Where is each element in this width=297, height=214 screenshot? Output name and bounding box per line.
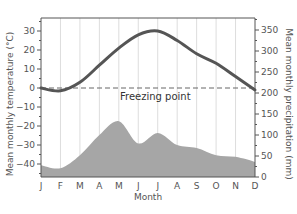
right-tick-label: 300 [261, 46, 278, 56]
x-axis-title: Month [134, 192, 162, 202]
left-axis-title: Mean monthly temperature (°C) [5, 32, 15, 177]
right-tick-label: 50 [261, 151, 273, 161]
right-tick-label: 350 [261, 25, 278, 35]
month-label: N [232, 181, 239, 191]
left-tick-label: 10 [24, 64, 36, 74]
month-label: M [76, 181, 84, 191]
right-tick-label: 200 [261, 88, 278, 98]
month-label: M [115, 181, 123, 191]
month-label: A [96, 181, 103, 191]
right-tick-label: 0 [261, 172, 267, 182]
left-tick-label: 30 [24, 26, 36, 36]
precipitation-area [41, 121, 255, 177]
month-axis: JFMAMJJASOND [39, 181, 259, 191]
left-tick-label: −30 [16, 140, 35, 150]
right-tick-label: 150 [261, 109, 278, 119]
month-label: J [136, 181, 140, 191]
right-tick-label: 250 [261, 67, 278, 77]
left-tick-label: 20 [24, 45, 36, 55]
month-label: J [39, 181, 43, 191]
left-tick-label: −20 [16, 121, 35, 131]
freezing-point-label: Freezing point [120, 91, 191, 102]
left-tick-label: −10 [16, 102, 35, 112]
left-tick-label: 0 [29, 83, 35, 93]
month-label: J [155, 181, 159, 191]
temperature-line [41, 31, 255, 91]
month-label: O [213, 181, 220, 191]
left-tick-label: −40 [16, 159, 35, 169]
right-axis-title: Mean monthly precipitation (mm) [284, 28, 294, 179]
right-tick-label: 100 [261, 130, 278, 140]
left-temperature-axis: 3020100−10−20−30−40 [16, 18, 41, 177]
month-label: A [174, 181, 181, 191]
month-label: S [194, 181, 200, 191]
climate-chart: Freezing point 3020100−10−20−30−40 35030… [0, 0, 297, 214]
month-label: F [58, 181, 63, 191]
month-label: D [252, 181, 259, 191]
right-precipitation-axis: 350300250200150100500 [255, 18, 278, 182]
